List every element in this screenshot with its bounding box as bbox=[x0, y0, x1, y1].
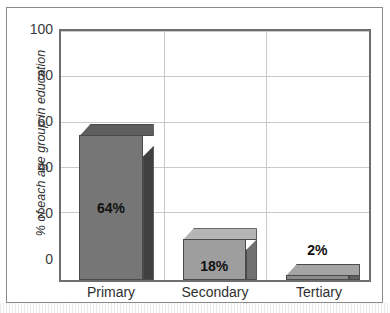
bar-secondary[interactable]: 18% bbox=[183, 239, 246, 280]
y-tick-label: 60 bbox=[9, 113, 53, 129]
bar-tertiary[interactable]: 2% bbox=[286, 275, 349, 280]
bar-value-label: 18% bbox=[183, 258, 246, 274]
bars-layer: 64% 18% 2% bbox=[61, 31, 369, 280]
y-axis-ticks: 100 80 60 40 20 0 bbox=[7, 29, 53, 282]
plot-inner: 64% 18% 2% bbox=[61, 31, 369, 280]
bar-side-face bbox=[143, 146, 154, 280]
y-tick-label: 80 bbox=[9, 67, 53, 83]
x-axis-labels: Primary Secondary Tertiary bbox=[59, 284, 371, 304]
y-tick-label: 100 bbox=[9, 21, 53, 37]
bar-front-face bbox=[286, 275, 349, 280]
y-tick-label: 20 bbox=[9, 205, 53, 221]
chart-frame: % of each age group in education 100 80 … bbox=[6, 7, 383, 303]
bar-primary[interactable]: 64% bbox=[79, 135, 142, 280]
x-tick-label-secondary: Secondary bbox=[163, 284, 267, 304]
x-tick-label-primary: Primary bbox=[59, 284, 163, 304]
bar-side-face bbox=[246, 239, 257, 280]
chart-title-text: Natural and Social Sciences bbox=[7, 0, 186, 3]
bar-value-label: 2% bbox=[286, 242, 349, 258]
scan-artifact-band bbox=[0, 303, 390, 313]
y-tick-label: 0 bbox=[9, 251, 53, 267]
chart-title-clipped: Natural and Social Sciences bbox=[7, 0, 207, 5]
x-tick-label-tertiary: Tertiary bbox=[267, 284, 371, 304]
y-tick-label: 40 bbox=[9, 159, 53, 175]
bar-value-label: 64% bbox=[79, 200, 142, 216]
plot-area: 64% 18% 2% bbox=[59, 29, 371, 282]
